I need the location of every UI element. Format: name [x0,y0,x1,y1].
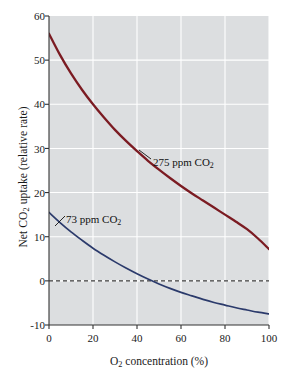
plot-area [0,0,289,377]
annotation-275-ppm-sub: 2 [210,161,214,170]
annotation-73-ppm-sub: 2 [117,218,121,227]
chart-figure: Net CO2 uptake (relative rate) O2 concen… [0,0,289,377]
annotation-275-ppm: 275 ppm CO2 [153,156,214,170]
annotation-73-ppm-pre: 73 ppm CO [66,213,117,225]
annotation-73-ppm: 73 ppm CO2 [66,213,121,227]
annotation-275-ppm-pre: 275 ppm CO [153,156,210,168]
